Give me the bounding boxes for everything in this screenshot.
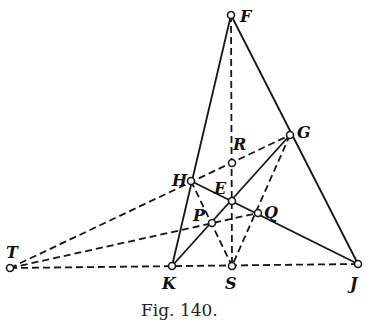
geometry-figure: F G R H E P Q T K S J Fig. 140. xyxy=(0,0,378,329)
point-Q xyxy=(255,210,262,217)
label-F: F xyxy=(239,7,253,26)
line-TJ xyxy=(10,264,358,268)
label-S: S xyxy=(225,274,237,293)
point-S xyxy=(229,263,236,270)
solid-lines xyxy=(172,15,358,266)
point-P xyxy=(209,220,216,227)
line-FS xyxy=(231,15,232,266)
label-R: R xyxy=(232,135,246,154)
point-H xyxy=(188,178,195,185)
labels: F G R H E P Q T K S J xyxy=(6,7,359,293)
label-G: G xyxy=(297,123,311,142)
point-G xyxy=(287,132,294,139)
line-TQ xyxy=(10,213,258,268)
line-TG xyxy=(10,135,290,268)
label-J: J xyxy=(347,274,359,293)
figure-caption: Fig. 140. xyxy=(141,300,218,320)
point-T xyxy=(7,265,14,272)
label-Q: Q xyxy=(264,203,278,222)
point-J xyxy=(355,261,362,268)
point-F xyxy=(228,12,235,19)
point-K xyxy=(169,263,176,270)
label-P: P xyxy=(192,206,206,225)
line-GS xyxy=(232,135,290,266)
label-H: H xyxy=(171,171,188,190)
label-T: T xyxy=(6,243,19,262)
label-E: E xyxy=(213,179,227,198)
point-E xyxy=(229,198,236,205)
point-R xyxy=(229,160,236,167)
line-FK xyxy=(172,15,231,266)
label-K: K xyxy=(161,274,177,293)
